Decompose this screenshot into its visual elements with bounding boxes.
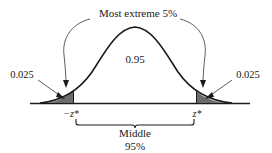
left-critical-value-label: −z* [63,108,79,119]
center-probability-label: 0.95 [125,53,145,65]
right-critical-value-label: z* [192,108,202,119]
right-curved-arrow-head [200,80,206,88]
left-tail-arrow-head [56,92,65,99]
normal-curve-figure: Most extreme 5% 0.95 0.025 0.025 −z* z* … [0,0,272,153]
bottom-label-percent: 95% [125,140,145,152]
left-curved-arrow-head [63,80,69,88]
left-tail-probability-label: 0.025 [10,69,34,80]
left-curved-arrow [64,19,90,84]
right-curved-arrow [180,19,205,84]
right-tail-probability-label: 0.025 [236,69,260,80]
top-label: Most extreme 5% [99,7,177,19]
bottom-label-middle: Middle [119,127,151,139]
